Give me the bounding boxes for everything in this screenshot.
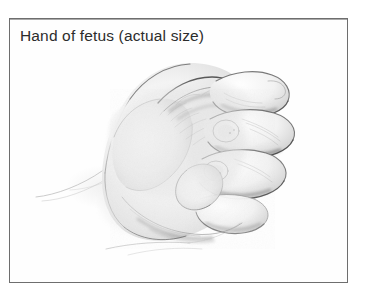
fetal-hand-illustration [10,19,348,283]
pencil-grain [110,89,275,249]
figure-frame: Hand of fetus (actual size) [9,18,348,283]
figure-page: Hand of fetus (actual size) [0,0,369,290]
